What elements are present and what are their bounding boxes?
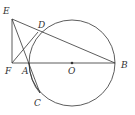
- center-point-o: [71, 62, 74, 65]
- label-a: A: [21, 66, 29, 76]
- label-e: E: [2, 6, 10, 16]
- geometry-diagram: E D F A O B C: [0, 0, 135, 115]
- label-c: C: [34, 98, 41, 108]
- segment-fd: [12, 32, 38, 63]
- segment-ec: [12, 19, 40, 93]
- label-f: F: [4, 66, 12, 76]
- label-o: O: [68, 66, 76, 76]
- label-b: B: [120, 60, 128, 70]
- segment-eb: [12, 19, 115, 63]
- label-d: D: [37, 20, 45, 30]
